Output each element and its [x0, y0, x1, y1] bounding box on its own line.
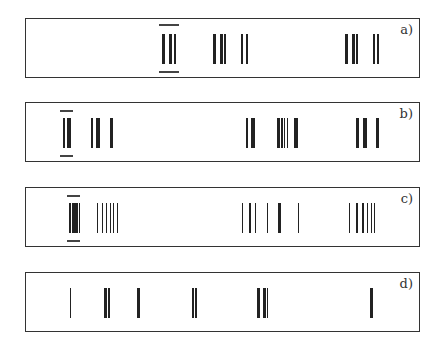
spectral-line: [97, 203, 98, 233]
spectral-line: [362, 203, 364, 233]
spectral-line: [77, 203, 78, 233]
spectral-line: [263, 288, 266, 318]
spectral-line: [174, 34, 176, 64]
highlight-bar-top: [67, 195, 80, 197]
panel-c: c): [25, 187, 420, 247]
spectral-line: [257, 288, 260, 318]
spectral-line: [137, 288, 140, 318]
spectral-line: [91, 118, 93, 148]
panel-label: a): [400, 22, 413, 37]
spectral-line: [104, 288, 107, 318]
spectral-line: [287, 118, 288, 148]
spectral-line: [110, 118, 113, 148]
spectral-line: [281, 118, 283, 148]
spectral-line: [169, 34, 172, 64]
spectral-line: [220, 34, 223, 64]
panel-b: b): [25, 102, 420, 162]
spectral-line: [370, 288, 373, 318]
spectral-line: [277, 118, 280, 148]
spectral-line: [251, 118, 255, 148]
spectral-line: [102, 203, 103, 233]
spectral-line: [267, 288, 268, 318]
spectral-line: [356, 203, 358, 233]
spectral-line: [192, 288, 194, 318]
spectral-line: [110, 203, 111, 233]
spectral-line: [63, 118, 65, 148]
panel-d: d): [25, 272, 420, 332]
spectral-line: [298, 203, 299, 233]
highlight-bar-bottom: [60, 155, 73, 157]
spectral-line: [117, 203, 118, 233]
spectral-line: [246, 34, 248, 64]
spectral-line: [70, 288, 71, 318]
spectral-line: [349, 203, 350, 233]
spectral-line: [345, 34, 348, 64]
spectral-line: [242, 203, 243, 233]
panel-label: d): [400, 276, 413, 291]
spectral-line: [213, 34, 216, 64]
panel-label: c): [401, 191, 413, 206]
spectral-line: [376, 118, 379, 148]
spectral-line: [371, 203, 372, 233]
spectral-line: [113, 203, 114, 233]
spectral-line: [79, 203, 80, 233]
spectral-line: [108, 288, 110, 318]
spectral-line: [255, 203, 256, 233]
spectral-line: [352, 34, 355, 64]
spectral-line: [224, 34, 226, 64]
spectral-line: [284, 118, 285, 148]
spectral-line: [267, 203, 268, 233]
spectral-line: [278, 203, 281, 233]
spectral-line: [96, 118, 100, 148]
spectral-line: [67, 118, 71, 148]
spectral-line: [249, 203, 251, 233]
highlight-bar-bottom: [67, 240, 80, 242]
highlight-bar-top: [60, 110, 73, 112]
spectral-line: [356, 118, 359, 148]
spectral-line: [373, 34, 375, 64]
panel-label: b): [400, 106, 413, 121]
highlight-bar-bottom: [159, 71, 179, 73]
spectral-line: [356, 34, 358, 64]
spectral-line: [374, 203, 375, 233]
spectral-line: [162, 34, 165, 64]
spectral-line: [246, 118, 248, 148]
highlight-bar-top: [159, 24, 179, 26]
spectral-line: [294, 118, 298, 148]
spectral-line: [363, 118, 367, 148]
spectral-line: [377, 34, 379, 64]
panel-a: a): [25, 18, 420, 78]
spectral-line: [195, 288, 197, 318]
spectral-line: [241, 34, 243, 64]
spectral-line: [69, 203, 71, 233]
spectral-line: [367, 203, 368, 233]
spectral-line: [106, 203, 107, 233]
